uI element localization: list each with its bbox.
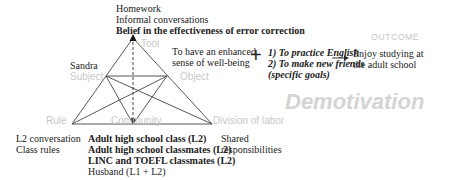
outcome-line: the adult school xyxy=(353,59,416,70)
object-line: sense of well-being xyxy=(172,57,250,68)
community-item: LINC and TOEFL classmates (L2) xyxy=(88,155,235,166)
tool-item: Homework xyxy=(116,3,161,14)
rule-item: L2 conversation xyxy=(16,133,81,144)
goal-line: 2) To make new friends xyxy=(268,58,364,69)
object-node-label: Object xyxy=(180,71,209,82)
subject-value: Sandra xyxy=(70,60,98,71)
community-item: Adult high school class (L2) xyxy=(88,133,206,144)
outcome-line: Enjoy studying at xyxy=(353,48,424,59)
rule-item: Class rules xyxy=(16,144,60,155)
division-of-labor-node-label: Division of labor xyxy=(213,115,284,126)
plus-icon: + xyxy=(250,44,262,67)
subject-node-label: Subject xyxy=(70,71,103,82)
rule-node-label: Rule xyxy=(46,115,67,126)
division-of-labor-line: Shared xyxy=(221,133,249,144)
demotivation-watermark: Demotivation xyxy=(285,89,424,115)
community-node-label: Community xyxy=(111,115,162,126)
tool-item-belief: Belief in the effectiveness of error cor… xyxy=(116,25,305,36)
community-item: Husband (L1 + L2) xyxy=(88,166,166,177)
goal-note: (specific goals) xyxy=(268,69,330,80)
tool-item: Informal conversations xyxy=(116,14,208,25)
object-line: To have an enhanced xyxy=(172,46,256,57)
division-of-labor-line: responsibilities xyxy=(221,144,282,155)
outcome-label: OUTCOME xyxy=(371,32,419,42)
tool-node-label: Tool xyxy=(141,38,159,49)
goal-line: 1) To practice English xyxy=(268,47,359,58)
community-item: Adult high school classmates (L2) xyxy=(88,144,231,155)
